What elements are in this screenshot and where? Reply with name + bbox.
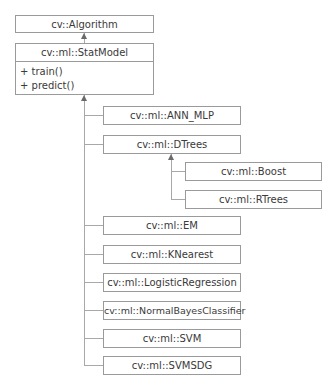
connector [84, 225, 103, 226]
connector [171, 171, 185, 172]
class-box-ann-mlp: cv::ml::ANN_MLP [103, 106, 241, 125]
connector [171, 199, 185, 200]
connector [84, 282, 103, 283]
class-name: cv::ml::KNearest [104, 246, 240, 263]
class-name: cv::ml::SVMSDG [104, 357, 240, 374]
class-members: + train() + predict() [16, 62, 153, 93]
connector [84, 365, 103, 366]
inheritance-arrow-icon [81, 33, 87, 39]
class-name: cv::ml::LogisticRegression [104, 274, 240, 291]
class-box-dtrees: cv::ml::DTrees [103, 135, 241, 154]
class-box-algorithm: cv::Algorithm [15, 15, 154, 33]
class-name: cv::ml::NormalBayesClassifier [104, 302, 240, 319]
class-box-logisticregression: cv::ml::LogisticRegression [103, 273, 241, 292]
connector [84, 144, 103, 145]
connector [84, 310, 103, 311]
class-name: cv::Algorithm [16, 16, 153, 33]
class-name: cv::ml::Boost [186, 163, 321, 180]
inheritance-arrow-icon [168, 154, 174, 160]
method-train: + train() [20, 65, 153, 79]
class-name: cv::ml::DTrees [104, 136, 240, 153]
connector [84, 338, 103, 339]
connector [84, 115, 103, 116]
class-box-rtrees: cv::ml::RTrees [185, 190, 322, 209]
class-box-normalbayesclassifier: cv::ml::NormalBayesClassifier [103, 301, 241, 320]
class-name: cv::ml::ANN_MLP [104, 107, 240, 124]
method-predict: + predict() [20, 79, 153, 93]
class-box-boost: cv::ml::Boost [185, 162, 322, 181]
class-box-svmsdg: cv::ml::SVMSDG [103, 356, 241, 375]
class-box-svm: cv::ml::SVM [103, 329, 241, 348]
class-name: cv::ml::EM [104, 217, 240, 234]
connector [84, 254, 103, 255]
class-box-statmodel: cv::ml::StatModel + train() + predict() [15, 43, 154, 95]
class-box-em: cv::ml::EM [103, 216, 241, 235]
class-name: cv::ml::StatModel [16, 44, 153, 62]
inheritance-trunk [84, 95, 85, 366]
inheritance-arrow-icon [81, 95, 87, 101]
class-name: cv::ml::SVM [104, 330, 240, 347]
class-name: cv::ml::RTrees [186, 191, 321, 208]
inheritance-subtrunk [171, 154, 172, 199]
class-box-knearest: cv::ml::KNearest [103, 245, 241, 264]
